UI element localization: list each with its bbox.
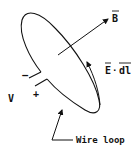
label-plus: + — [33, 88, 39, 99]
terminal-negative-lead — [29, 72, 41, 78]
wire-loop-diagram: B E · dl − V + Wire loop — [0, 0, 135, 155]
svg-text:·: · — [112, 65, 117, 75]
label-wire-loop: Wire loop — [76, 135, 125, 145]
magnetic-field-arrow — [58, 19, 108, 55]
label-b: B — [112, 11, 119, 24]
terminal-positive-lead — [35, 79, 47, 86]
label-minus: − — [22, 69, 29, 82]
svg-text:E: E — [105, 65, 111, 76]
svg-text:B: B — [112, 13, 118, 24]
label-e-dot-dl: E · dl — [105, 63, 131, 76]
wire-loop-leader — [52, 110, 73, 140]
label-v: V — [8, 93, 14, 104]
svg-text:dl: dl — [119, 65, 131, 76]
